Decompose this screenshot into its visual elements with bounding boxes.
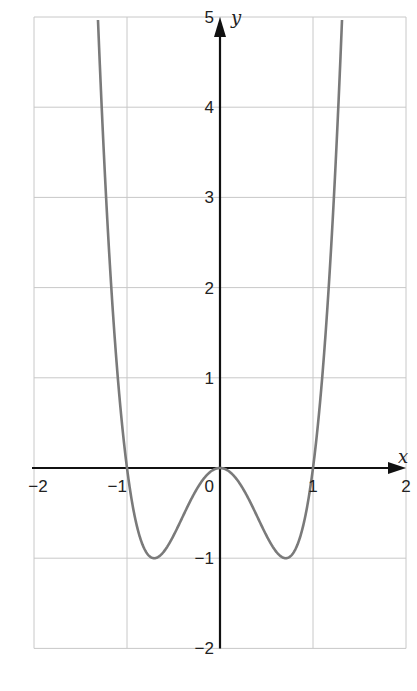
x-tick-label: 0	[205, 477, 214, 496]
y-tick-label: 1	[205, 369, 214, 388]
y-tick-label: −2	[195, 639, 214, 658]
y-tick-label: −1	[195, 549, 214, 568]
y-axis-label: y	[230, 7, 242, 28]
x-tick-label: 1	[308, 477, 317, 496]
x-tick-label: −1	[108, 477, 127, 496]
x-tick-label: 2	[401, 477, 410, 496]
axes	[32, 17, 406, 648]
function-graph: −2−1012−2−112345 x y	[0, 0, 417, 691]
y-tick-label: 4	[205, 98, 214, 117]
y-tick-label: 3	[205, 188, 214, 207]
y-tick-label: 5	[205, 8, 214, 27]
y-tick-label: 2	[205, 279, 214, 298]
x-axis-label: x	[398, 446, 408, 467]
x-tick-label: −2	[28, 477, 47, 496]
y-axis-arrow-icon	[214, 17, 226, 37]
